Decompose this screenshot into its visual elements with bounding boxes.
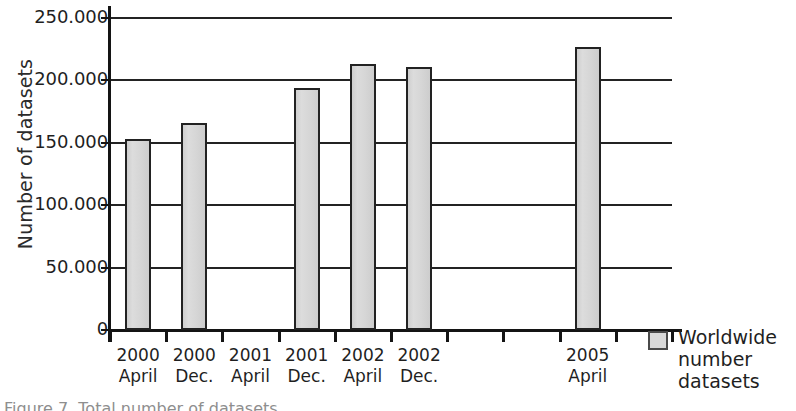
y-tick-label-200.000: 200.000 <box>24 68 108 89</box>
x-tick-mark-10 <box>671 331 674 342</box>
x-tick-mark-9 <box>615 331 618 342</box>
y-tick-label-100.000: 100.000 <box>24 193 108 214</box>
x-tick-mark-6 <box>446 331 449 342</box>
x-tick-mark-7 <box>502 331 505 342</box>
x-tick-mark-0 <box>109 331 112 342</box>
legend-label-line-1: Worldwide <box>678 326 796 348</box>
y-tick-mark-50.000 <box>101 267 111 269</box>
y-tick-label-250.000: 250.000 <box>24 6 108 27</box>
y-tick-mark-250.000 <box>101 17 111 19</box>
bar-2000-april <box>125 139 151 330</box>
legend-swatch-worldwide-number-datasets <box>648 331 668 350</box>
x-tick-mark-5 <box>390 331 393 342</box>
bar-2000-dec- <box>181 123 207 330</box>
x-tick-mark-1 <box>165 331 168 342</box>
legend-label-worldwide-number-datasets: Worldwidenumberdatasets <box>678 326 796 392</box>
y-tick-mark-100.000 <box>101 204 111 206</box>
gridline-250.000 <box>110 17 672 19</box>
x-tick-mark-2 <box>221 331 224 342</box>
x-label-year-2005-april: 2005 <box>552 345 624 366</box>
x-label-2005-april: 2005April <box>552 345 624 387</box>
x-label-2002-dec-: 2002Dec. <box>383 345 455 387</box>
x-label-year-2002-dec-: 2002 <box>383 345 455 366</box>
y-tick-label-50.000: 50.000 <box>24 256 108 277</box>
x-tick-mark-4 <box>334 331 337 342</box>
legend-label-line-2: number <box>678 348 796 370</box>
x-tick-mark-8 <box>559 331 562 342</box>
y-tick-mark-200.000 <box>101 79 111 81</box>
y-tick-mark-150.000 <box>101 142 111 144</box>
y-axis-tick-labels: 050.000100.000150.000200.000250.000 <box>24 0 108 411</box>
bar-2002-dec- <box>406 67 432 330</box>
y-tick-label-0: 0 <box>24 318 108 339</box>
x-tick-mark-3 <box>278 331 281 342</box>
x-axis-tick-labels: 2000April2000Dec.2001April2001Dec.2002Ap… <box>110 345 672 391</box>
legend-label-line-3: datasets <box>678 370 796 392</box>
bar-2002-april <box>350 64 376 330</box>
plot-area <box>110 18 672 330</box>
figure-container: Number of datasets 050.000100.000150.000… <box>0 0 796 411</box>
x-label-month-2005-april: April <box>552 366 624 387</box>
x-label-month-2002-dec-: Dec. <box>383 366 455 387</box>
y-tick-label-150.000: 150.000 <box>24 131 108 152</box>
figure-caption: Figure 7. Total number of datasets <box>4 399 704 411</box>
bar-2005-april <box>575 47 601 330</box>
bar-2001-dec- <box>294 88 320 330</box>
